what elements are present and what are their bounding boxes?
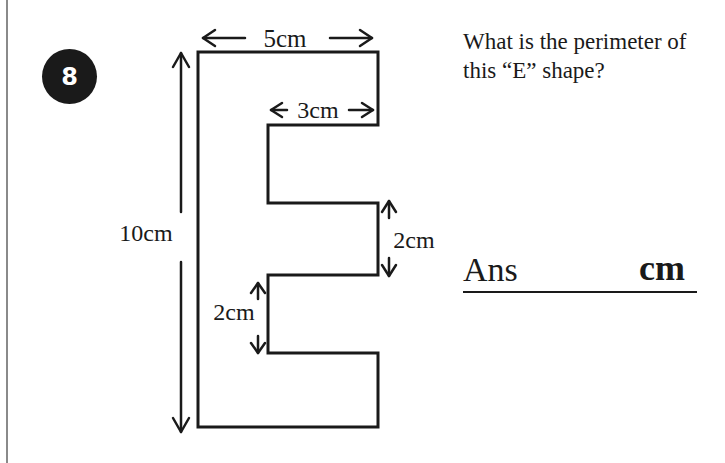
- arm-width-label: 3cm: [297, 97, 339, 123]
- top-width-label: 5cm: [263, 25, 307, 52]
- answer-unit: cm: [639, 247, 685, 289]
- lower-notch-label: 2cm: [213, 299, 255, 325]
- middle-gap-label: 2cm: [393, 227, 435, 253]
- question-text: What is the perimeter of this “E” shape?: [463, 27, 713, 85]
- height-label: 10cm: [119, 220, 173, 246]
- e-shape-outline: [198, 52, 378, 427]
- height-dimension: [173, 53, 189, 432]
- answer-label: Ans: [463, 251, 518, 289]
- answer-line[interactable]: Ans cm: [463, 245, 697, 293]
